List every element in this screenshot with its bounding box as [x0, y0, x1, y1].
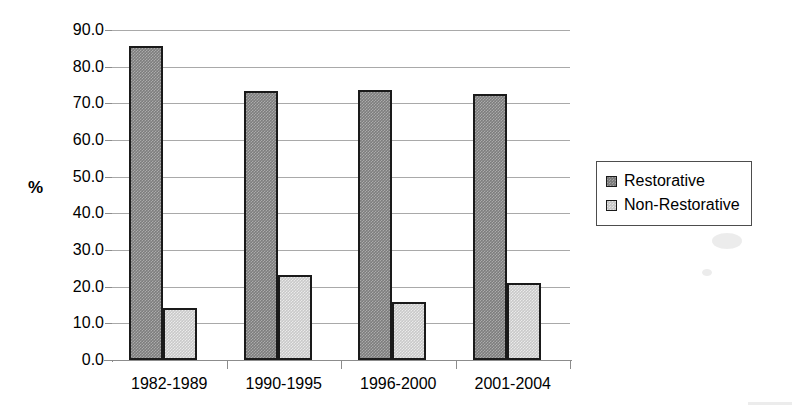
y-axis-tick-label: 70.0 [46, 95, 104, 111]
y-axis-tickmark [105, 323, 112, 324]
scan-artifact-smudge [712, 233, 742, 249]
legend-item-1: Non-Restorative [606, 193, 740, 217]
legend-swatch-icon [606, 176, 617, 187]
y-axis-tick-label: 80.0 [46, 59, 104, 75]
legend-item-label: Restorative [624, 172, 705, 190]
y-axis-tick-labels: 0.010.020.030.040.050.060.070.080.090.0 [46, 22, 104, 366]
bar-1-2 [392, 302, 426, 360]
gridline [112, 67, 570, 68]
category-separator-tick [456, 361, 457, 369]
y-axis-tick-label: 0.0 [46, 352, 104, 368]
legend-item-0: Restorative [606, 169, 740, 193]
x-axis-category-label: 2001-2004 [456, 374, 571, 394]
y-axis-tick-label: 40.0 [46, 205, 104, 221]
x-axis-category-label: 1990-1995 [227, 374, 342, 394]
x-axis-line [104, 360, 572, 361]
legend-item-label: Non-Restorative [624, 196, 740, 214]
y-axis-tickmark [105, 287, 112, 288]
scan-artifact-line [748, 402, 792, 405]
scan-artifact-speck [702, 269, 712, 276]
x-axis-category-label: 1982-1989 [112, 374, 227, 394]
bar-chart: % 0.010.020.030.040.050.060.070.080.090.… [0, 0, 809, 417]
y-axis-tickmark [105, 250, 112, 251]
plot-area [112, 30, 570, 360]
bar-1-3 [507, 283, 541, 360]
category-separator-tick [227, 361, 228, 369]
legend-swatch-icon [606, 200, 617, 211]
y-axis-tickmark [105, 67, 112, 68]
y-axis-tickmark [105, 177, 112, 178]
bar-1-1 [278, 275, 312, 360]
bar-0-2 [358, 90, 392, 360]
y-axis-tick-label: 10.0 [46, 315, 104, 331]
y-axis-tick-label: 20.0 [46, 279, 104, 295]
y-axis-tick-label: 50.0 [46, 169, 104, 185]
category-separator-tick [341, 361, 342, 369]
chart-legend: RestorativeNon-Restorative [596, 161, 752, 226]
y-axis-tick-label: 60.0 [46, 132, 104, 148]
category-separator-tick [570, 361, 571, 369]
y-axis-tickmark [105, 103, 112, 104]
gridline [112, 30, 570, 31]
y-axis-title: % [28, 178, 43, 198]
y-axis-tick-label: 30.0 [46, 242, 104, 258]
x-axis-category-labels: 1982-19891990-19951996-20002001-2004 [112, 374, 570, 400]
y-axis-tick-label: 90.0 [46, 22, 104, 38]
x-axis-category-label: 1996-2000 [341, 374, 456, 394]
y-axis-tickmark [105, 140, 112, 141]
y-axis-tickmark [105, 213, 112, 214]
bar-0-1 [244, 91, 278, 361]
y-axis-tickmark [105, 30, 112, 31]
bar-0-3 [473, 94, 507, 360]
bar-1-0 [163, 308, 197, 360]
y-axis-tickmark [105, 360, 112, 361]
bar-0-0 [129, 46, 163, 360]
